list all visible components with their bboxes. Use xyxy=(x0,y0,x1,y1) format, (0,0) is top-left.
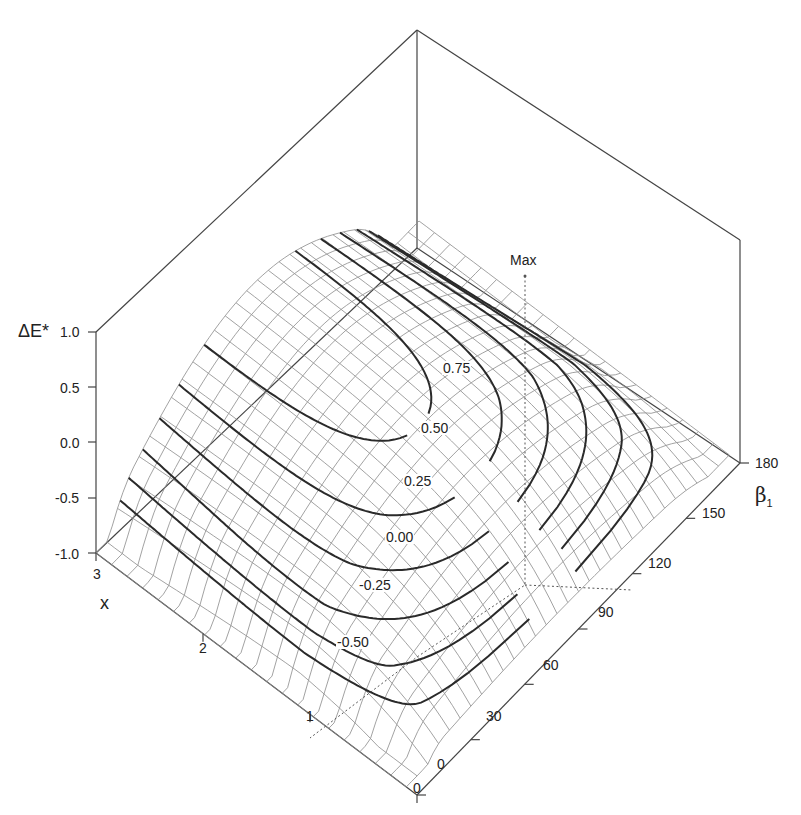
max-annotation: Max xyxy=(510,252,536,268)
z-tick-label: -0.5 xyxy=(55,490,79,506)
contour-label-0.25: 0.25 xyxy=(403,474,432,488)
beta-tick-label: 90 xyxy=(598,604,614,620)
beta-tick-label: 60 xyxy=(543,657,559,673)
z-tick-label: 1.0 xyxy=(60,324,79,340)
beta-subscript: 1 xyxy=(767,497,773,509)
surface-mesh xyxy=(96,221,729,787)
contour-label-neg0.25: -0.25 xyxy=(358,578,392,592)
z-tick-label: 0.0 xyxy=(60,435,79,451)
contour-label-0.00: 0.00 xyxy=(385,530,414,544)
z-axis-title: ΔE* xyxy=(18,321,49,342)
beta-tick-label: 30 xyxy=(486,708,502,724)
z-tick-label: 0.5 xyxy=(60,380,79,396)
beta-axis-title: β1 xyxy=(755,483,773,509)
x-tick-label: 0 xyxy=(413,780,421,796)
max-drop-line xyxy=(310,275,632,739)
x-axis-title: x xyxy=(100,593,109,614)
contour-label-0.75: 0.75 xyxy=(442,361,471,375)
x-tick-label: 1 xyxy=(306,708,314,724)
x-tick-label: 2 xyxy=(199,640,207,656)
z-tick-label: -1.0 xyxy=(55,546,79,562)
contour-lines xyxy=(120,230,652,705)
beta-tick-label: 120 xyxy=(648,555,671,571)
contour-label-neg0.50: -0.50 xyxy=(336,635,370,649)
beta-tick-label: 150 xyxy=(702,505,725,521)
x-tick-label: 3 xyxy=(93,566,101,582)
contour-label-0.50: 0.50 xyxy=(420,421,449,435)
beta-tick-label: 180 xyxy=(755,455,778,471)
surface-plot xyxy=(0,0,801,815)
beta-tick-label: 0 xyxy=(437,756,445,772)
beta-symbol: β xyxy=(755,483,767,507)
